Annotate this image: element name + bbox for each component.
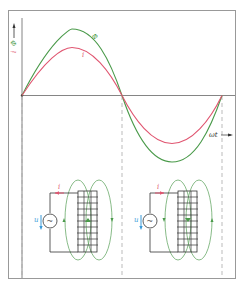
current-label: i: [58, 183, 60, 191]
current-arrow-icon: [55, 191, 59, 194]
voltage-label: u: [134, 216, 139, 224]
x-axis-arrowhead-icon: [228, 134, 233, 137]
circuit-1: ~ i u: [34, 180, 114, 260]
voltage-arrow-icon: [139, 226, 142, 230]
y-axis-arrowhead-icon: [13, 23, 16, 28]
curve-label-i: i: [82, 51, 84, 59]
phi-current-diagram: Φ i Φ i ωt ~: [0, 0, 245, 292]
curve-label-phi: Φ: [92, 33, 98, 41]
field-arrow-icon: [211, 218, 214, 222]
ac-symbol: ~: [47, 217, 54, 226]
current-arrow-icon: [160, 191, 164, 194]
current-label: i: [157, 183, 159, 191]
voltage-arrow-icon: [39, 226, 42, 230]
field-line-right: [86, 180, 112, 260]
field-arrow-icon: [111, 218, 114, 222]
circuit-2: ~ i u: [134, 180, 214, 260]
x-axis-label: ωt: [209, 131, 218, 139]
voltage-label: u: [34, 216, 39, 224]
y-axis-label-i: i: [10, 51, 18, 53]
field-line-right: [186, 180, 212, 260]
y-axis-label-phi: Φ: [10, 40, 18, 46]
ac-symbol: ~: [147, 217, 154, 226]
